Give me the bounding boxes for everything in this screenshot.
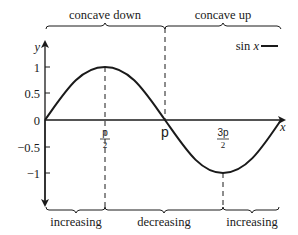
top-braces: concave down concave up [46,8,281,29]
sine-concavity-chart: concave down concave up y 1 0.5 0 −0.5 −… [0,0,298,235]
decreasing-label: decreasing [137,215,191,229]
brace-increasing-1 [46,207,105,213]
legend: sin x [236,39,278,53]
y-tick-labels: y 1 0.5 0 −0.5 −1 [17,40,40,181]
y-tick-0: 0 [34,114,40,128]
x-tick-labels: p 2 p 3p 2 x [100,120,286,150]
y-tick-1: 1 [34,61,40,75]
brace-increasing-2 [223,207,279,213]
increasing-label-2: increasing [226,215,278,229]
legend-label: sin x [236,39,260,53]
x-tick-pi-half-num: p [102,127,108,138]
y-tick-minus-0.5: −0.5 [17,141,40,155]
concave-down-label: concave down [69,8,142,22]
brace-decreasing [105,207,223,213]
concave-up-label: concave up [195,8,252,22]
brace-concave-up [165,23,281,29]
x-tick-pi: p [161,124,169,140]
increasing-label-1: increasing [50,215,102,229]
bottom-braces: increasing decreasing increasing [46,207,279,229]
y-tick-minus-1: −1 [27,167,40,181]
x-tick-pi-half-den: 2 [103,140,108,150]
brace-concave-down [46,23,165,29]
x-tick-3pi-half-num: 3p [217,127,229,138]
x-tick-3pi-half-den: 2 [221,140,226,150]
y-tick-0.5: 0.5 [24,87,40,101]
y-label: y [32,40,40,54]
